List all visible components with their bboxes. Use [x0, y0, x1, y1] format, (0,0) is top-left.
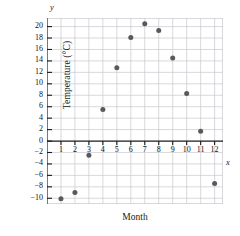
plot-area: y x Month Temperature (°C) −10−8−6−4−202…: [47, 18, 223, 204]
x-tick-label: 10: [180, 145, 194, 154]
y-tick-label: −6: [21, 170, 43, 179]
data-points-layer: [47, 18, 223, 204]
x-tick-label: 8: [152, 145, 166, 154]
scatter-chart: y x Month Temperature (°C) −10−8−6−4−202…: [0, 0, 240, 236]
y-tick-label: 12: [21, 67, 43, 76]
y-tick-label: 0: [21, 136, 43, 145]
x-axis-title: Month: [47, 212, 223, 222]
x-tick-label: 6: [124, 145, 138, 154]
x-tick-label: 7: [138, 145, 152, 154]
y-tick-label: 6: [21, 101, 43, 110]
data-point: [100, 107, 105, 112]
x-tick-label: 4: [96, 145, 110, 154]
data-point: [198, 129, 203, 134]
data-point: [128, 35, 133, 40]
y-tick-label: 4: [21, 113, 43, 122]
data-point: [170, 56, 175, 61]
y-tick-label: 14: [21, 55, 43, 64]
x-tick-label: 11: [194, 145, 208, 154]
x-tick-label: 2: [68, 145, 82, 154]
y-axis-letter: y: [50, 2, 54, 12]
x-tick-label: 12: [208, 145, 222, 154]
data-point: [142, 21, 147, 26]
data-point: [114, 65, 119, 70]
data-point: [156, 28, 161, 33]
x-tick-label: 5: [110, 145, 124, 154]
y-tick-label: 18: [21, 33, 43, 42]
data-point: [212, 181, 217, 186]
x-tick-label: 3: [82, 145, 96, 154]
y-tick-label: 16: [21, 44, 43, 53]
x-tick-label: 9: [166, 145, 180, 154]
y-tick-label: −8: [21, 181, 43, 190]
y-tick-label: 20: [21, 21, 43, 30]
y-tick-label: 10: [21, 78, 43, 87]
data-point: [58, 196, 63, 201]
y-axis-title: Temperature (°C): [62, 15, 72, 135]
y-tick-label: 2: [21, 124, 43, 133]
x-tick-label: 1: [54, 145, 68, 154]
x-axis-letter: x: [226, 157, 230, 167]
y-tick-label: −10: [21, 193, 43, 202]
y-tick-label: 8: [21, 90, 43, 99]
y-tick-label: −2: [21, 147, 43, 156]
data-point: [184, 91, 189, 96]
y-tick-label: −4: [21, 158, 43, 167]
data-point: [72, 190, 77, 195]
